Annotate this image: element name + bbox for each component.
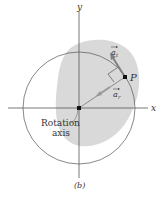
rotation-axis-label-line1: Rotation	[41, 118, 80, 128]
point-p-marker	[123, 75, 127, 79]
y-axis-label: y	[76, 2, 83, 12]
rotation-axis-label-line2: axis	[52, 128, 70, 138]
rotation-axis-marker	[77, 106, 81, 110]
rotation-diagram: y x P a t a r Rotation axis (b)	[0, 0, 161, 202]
point-p-label: P	[129, 72, 137, 83]
x-axis-label: x	[151, 103, 156, 113]
figure-caption: (b)	[74, 181, 85, 190]
